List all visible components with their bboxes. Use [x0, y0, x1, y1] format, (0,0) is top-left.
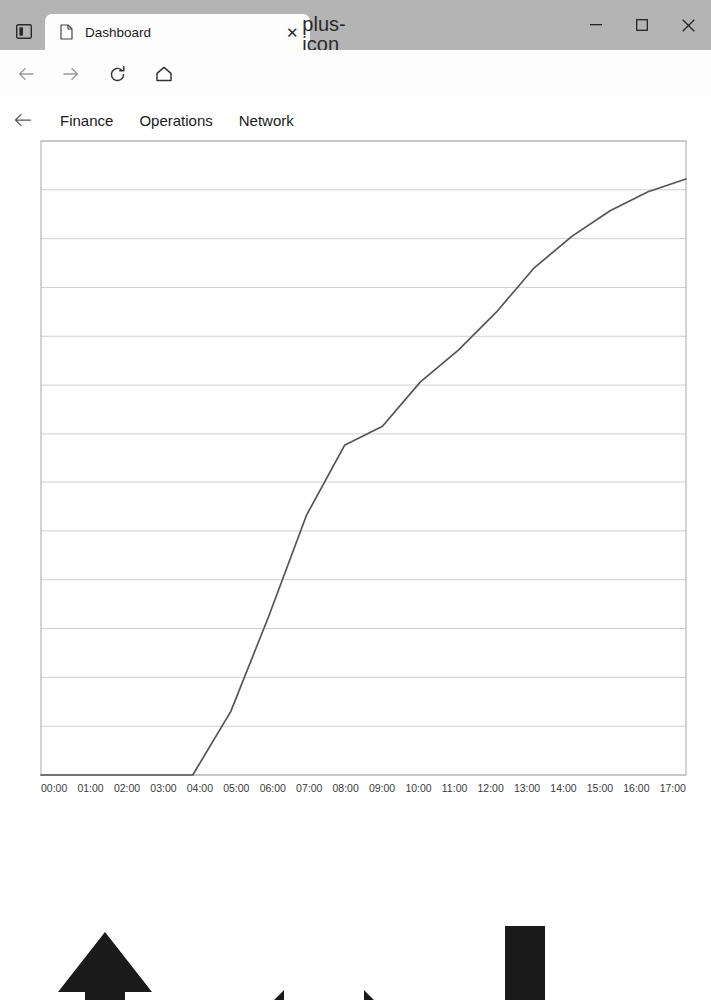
- chart-x-tick-label: 07:00: [296, 782, 322, 794]
- chart-x-tick-label: 00:00: [41, 782, 67, 794]
- maximize-button[interactable]: [619, 10, 665, 40]
- chart-x-tick-label: 04:00: [187, 782, 213, 794]
- tab-actions-icon[interactable]: [14, 22, 34, 40]
- chart-x-tick-label: 01:00: [77, 782, 103, 794]
- chart-x-tick-label: 06:00: [260, 782, 286, 794]
- chart-plot-frame: [41, 141, 686, 775]
- chart-x-tick-label: 02:00: [114, 782, 140, 794]
- chart-x-tick-label: 17:00: [660, 782, 686, 794]
- chart-x-tick-label: 12:00: [477, 782, 503, 794]
- plus-icon[interactable]: plus-icon: [312, 22, 336, 46]
- page-navigation: Finance Operations Network: [0, 104, 711, 136]
- chart-x-tick-label: 03:00: [150, 782, 176, 794]
- nav-link-finance[interactable]: Finance: [60, 112, 113, 129]
- browser-tab-dashboard[interactable]: Dashboard ✕: [45, 14, 310, 50]
- nav-link-network[interactable]: Network: [239, 112, 294, 129]
- chart-x-tick-label: 16:00: [623, 782, 649, 794]
- home-icon[interactable]: [148, 58, 180, 90]
- chart-x-tick-label: 09:00: [369, 782, 395, 794]
- reload-icon[interactable]: [101, 58, 133, 90]
- chart-x-tick-label: 05:00: [223, 782, 249, 794]
- chart-canvas: [0, 138, 711, 798]
- window-controls: [573, 10, 711, 40]
- line-chart: 00:0001:0002:0003:0004:0005:0006:0007:00…: [0, 138, 711, 818]
- chart-x-axis: 00:0001:0002:0003:0004:0005:0006:0007:00…: [41, 782, 686, 802]
- forward-arrow-icon[interactable]: [55, 58, 87, 90]
- browser-toolbar: localhost:52190 ⋯: [0, 50, 711, 98]
- chart-x-tick-label: 14:00: [550, 782, 576, 794]
- chart-x-tick-label: 11:00: [442, 782, 468, 794]
- browser-window: Dashboard ✕ plus-icon: [0, 0, 711, 1000]
- arrow-glyphs: [0, 916, 711, 1000]
- minimize-button[interactable]: [573, 10, 619, 40]
- page-content: Finance Operations Network 00:0001:0002:…: [0, 98, 711, 1000]
- nav-link-operations[interactable]: Operations: [139, 112, 212, 129]
- up-arrow-icon: [55, 930, 155, 1000]
- browser-title-bar: Dashboard ✕ plus-icon: [0, 0, 711, 50]
- page-icon: [57, 23, 75, 41]
- back-arrow-icon[interactable]: [10, 58, 42, 90]
- chart-x-tick-label: 08:00: [333, 782, 359, 794]
- close-button[interactable]: [665, 10, 711, 40]
- close-icon[interactable]: ✕: [282, 22, 302, 42]
- chart-x-tick-label: 10:00: [405, 782, 431, 794]
- chart-series-line: [41, 179, 686, 775]
- chart-x-tick-label: 15:00: [587, 782, 613, 794]
- tab-title: Dashboard: [85, 25, 282, 40]
- chart-x-tick-label: 13:00: [514, 782, 540, 794]
- left-right-arrow-icon: [228, 984, 420, 1000]
- down-arrow-icon: [473, 924, 577, 1000]
- page-back-arrow-icon[interactable]: [12, 112, 34, 128]
